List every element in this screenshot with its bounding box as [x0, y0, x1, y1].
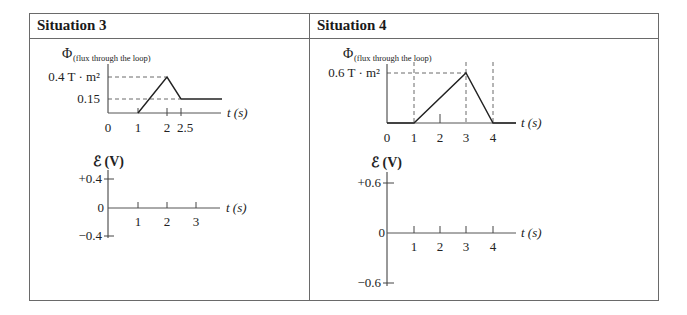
y-tick-label: −0.6	[357, 275, 381, 290]
graphs-canvas: Φ (flux through the loop) 0.4 T · m² 0.1…	[0, 0, 687, 315]
x-axis-label: t (s)	[521, 225, 542, 240]
flux-subscript: (flux through the loop)	[73, 53, 151, 63]
y-tick-label: −0.4	[78, 228, 102, 243]
situation-4-flux-graph: Φ (flux through the loop) 0.6 T · m² 0 1…	[328, 46, 541, 145]
x-tick-label: 3	[463, 130, 470, 145]
situation-3-emf-graph: ℰ (V) +0.4 0 −0.4 1 2 3 t (s)	[78, 154, 246, 243]
x-tick-label: 2	[437, 239, 444, 254]
flux-curve	[138, 77, 222, 113]
x-axis-label: t (s)	[226, 200, 247, 215]
x-tick-label: 2	[164, 214, 171, 229]
flux-subscript: (flux through the loop)	[354, 53, 432, 63]
x-tick-label: 4	[490, 239, 497, 254]
y-tick-label: +0.4	[78, 171, 102, 186]
x-tick-label: 0	[384, 130, 391, 145]
x-tick-label: 3	[463, 239, 470, 254]
x-tick-label: 1	[135, 214, 142, 229]
x-tick-label: 0	[105, 120, 112, 135]
x-tick-label: 3	[193, 214, 200, 229]
x-tick-label: 2.5	[177, 120, 193, 135]
x-tick-label: 2	[164, 120, 171, 135]
flux-curve	[387, 73, 516, 123]
x-axis-label: t (s)	[227, 105, 248, 120]
y-tick-label: 0	[379, 225, 386, 240]
x-axis-label: t (s)	[521, 115, 542, 130]
situation-3-flux-graph: Φ (flux through the loop) 0.4 T · m² 0.1…	[48, 46, 247, 135]
x-tick-label: 1	[411, 130, 418, 145]
flux-symbol: Φ	[62, 46, 72, 61]
x-tick-label: 1	[411, 239, 418, 254]
x-tick-label: 4	[490, 130, 497, 145]
emf-axis-label: ℰ (V)	[93, 154, 124, 170]
y-tick-label: 0.15	[77, 91, 100, 106]
x-tick-label: 2	[437, 130, 444, 145]
emf-axis-label: ℰ (V)	[371, 155, 402, 171]
y-tick-label: 0.6 T · m²	[328, 65, 380, 80]
y-tick-label: 0	[98, 200, 105, 215]
y-tick-label: +0.6	[357, 175, 381, 190]
x-tick-label: 1	[135, 120, 142, 135]
flux-symbol: Φ	[343, 46, 353, 61]
y-tick-label: 0.4 T · m²	[48, 69, 100, 84]
situation-4-emf-graph: ℰ (V) +0.6 0 −0.6 1 2 3 4 t (s)	[357, 155, 541, 290]
